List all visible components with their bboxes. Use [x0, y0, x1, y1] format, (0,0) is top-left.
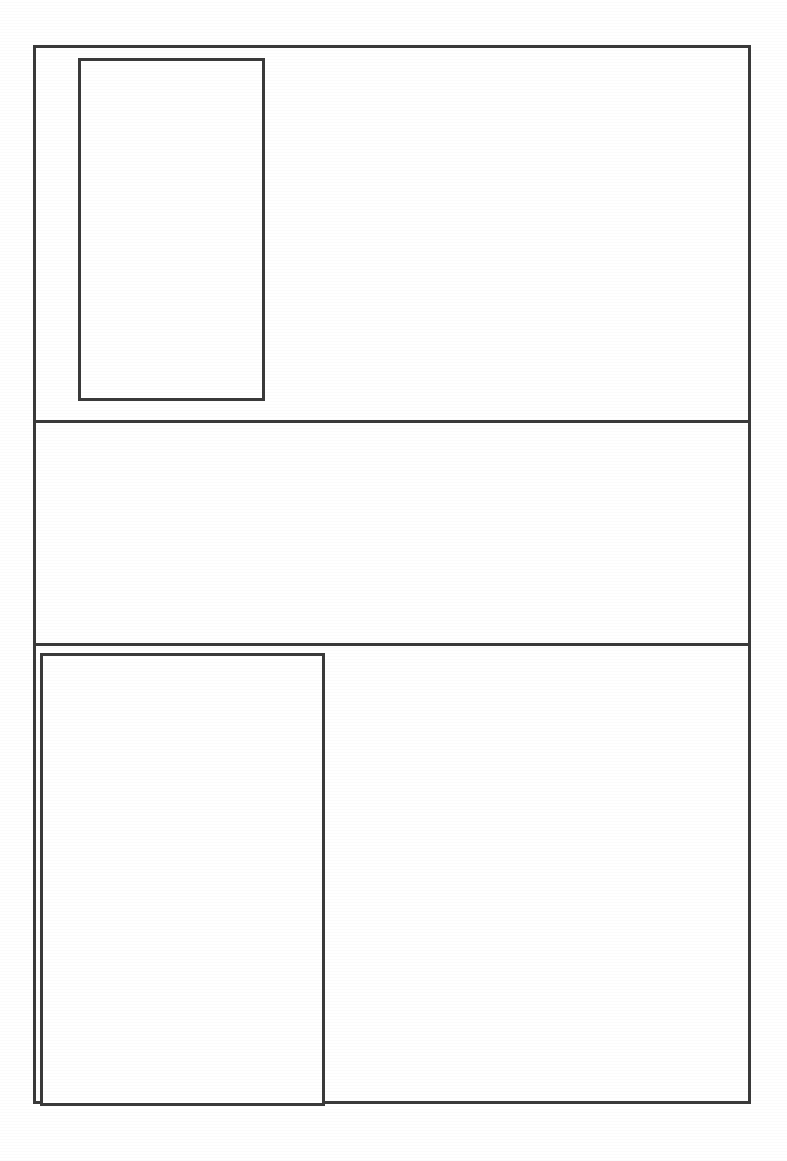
form-outer-frame [33, 45, 751, 1104]
form-region-top[interactable] [36, 48, 748, 420]
form-region-bottom[interactable] [36, 646, 748, 1101]
form-region-middle[interactable] [36, 423, 748, 643]
content-box-bottom-left[interactable] [40, 653, 325, 1106]
scanned-page-canvas [0, 0, 787, 1161]
content-box-top-left[interactable] [78, 58, 265, 401]
